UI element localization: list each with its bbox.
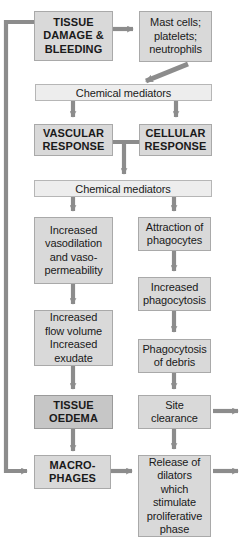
node-chemical-mediators-2[interactable]: Chemical mediators xyxy=(34,180,212,197)
node-macrophages[interactable]: MACRO- PHAGES xyxy=(34,455,111,489)
node-mast-cells-platelets-neutrophils[interactable]: Mast cells; platelets; neutrophils xyxy=(139,11,212,62)
node-increased-vasodilation[interactable]: Increased vasodilation and vaso- permeab… xyxy=(34,217,113,284)
node-attraction-of-phagocytes[interactable]: Attraction of phagocytes xyxy=(138,217,211,251)
edge-feedback-loop-left xyxy=(6,22,34,471)
node-chemical-mediators-1[interactable]: Chemical mediators xyxy=(35,84,212,101)
node-tissue-damage-bleeding[interactable]: TISSUE DAMAGE & BLEEDING xyxy=(34,11,113,61)
node-tissue-oedema[interactable]: TISSUE OEDEMA xyxy=(34,395,113,429)
node-increased-phagocytosis[interactable]: Increased phagocytosis xyxy=(138,277,211,311)
edge-mast-cells-to-chemical-mediators xyxy=(146,64,188,81)
node-phagocytosis-of-debris[interactable]: Phagocytosis of debris xyxy=(138,339,211,373)
node-increased-flow-volume-exudate[interactable]: Increased flow volume Increased exudate xyxy=(34,310,113,366)
flowchart-canvas: TISSUE DAMAGE & BLEEDING Mast cells; pla… xyxy=(0,0,244,547)
node-vascular-response[interactable]: VASCULAR RESPONSE xyxy=(34,124,113,156)
node-release-of-dilators[interactable]: Release of dilators which stimulate prol… xyxy=(138,455,211,537)
node-cellular-response[interactable]: CELLULAR RESPONSE xyxy=(139,124,212,156)
node-site-clearance[interactable]: Site clearance xyxy=(138,395,211,429)
